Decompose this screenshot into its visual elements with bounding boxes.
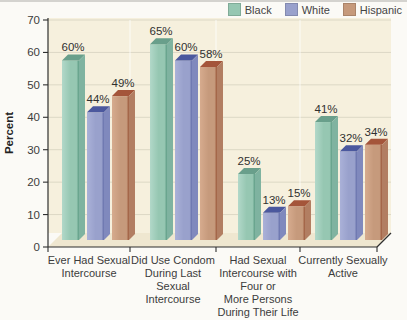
value-label-white-1: 60%: [174, 41, 197, 53]
bar-hispanic-2: [288, 206, 305, 240]
value-label-black-2: 25%: [237, 155, 260, 167]
bar-side-hispanic-0: [129, 90, 135, 240]
value-label-white-3: 32%: [339, 132, 362, 144]
y-tick-label-30: 30: [27, 144, 40, 156]
bar-side-white-1: [192, 54, 198, 240]
y-tick-label-60: 60: [27, 46, 40, 58]
bar-side-white-0: [104, 106, 110, 240]
bar-hispanic-3: [365, 145, 382, 240]
value-label-black-0: 60%: [61, 41, 84, 53]
bar-black-0: [62, 60, 79, 240]
category-label-0: Ever Had SexualIntercourse: [48, 254, 131, 279]
category-label-1: Did Use CondomDuring LastSexualIntercour…: [131, 254, 215, 305]
legend-label-hispanic: Hispanic: [360, 4, 402, 16]
category-label-2: Had SexualIntercourse withFour orMore Pe…: [217, 254, 298, 318]
bar-side-white-3: [357, 145, 363, 240]
bar-white-1: [175, 60, 192, 240]
bar-white-3: [340, 151, 357, 240]
legend-item-black: Black: [228, 3, 272, 16]
bar-side-black-1: [167, 38, 173, 240]
category-label-3: Currently SexuallyActive: [298, 254, 388, 279]
bar-hispanic-0: [112, 96, 129, 240]
chart-legend: Black White Hispanic: [228, 3, 402, 16]
bar-white-0: [87, 112, 104, 240]
bar-side-black-2: [255, 168, 261, 240]
legend-label-white: White: [302, 4, 330, 16]
y-tick-label-40: 40: [27, 111, 40, 123]
y-tick-label-20: 20: [27, 176, 40, 188]
bar-white-2: [263, 213, 280, 240]
bar-black-3: [315, 122, 332, 240]
bar-side-hispanic-3: [382, 139, 388, 240]
y-tick-label-0: 0: [34, 241, 40, 253]
value-label-hispanic-0: 49%: [111, 77, 134, 89]
value-label-hispanic-3: 34%: [364, 126, 387, 138]
value-label-hispanic-1: 58%: [199, 48, 222, 60]
value-label-black-1: 65%: [149, 25, 172, 37]
legend-item-hispanic: Hispanic: [343, 3, 402, 16]
bar-side-hispanic-1: [217, 61, 223, 240]
bar-black-2: [238, 174, 255, 240]
bar-side-black-0: [79, 54, 85, 240]
y-tick-label-10: 10: [27, 209, 40, 221]
legend-swatch-black: [228, 3, 241, 16]
value-label-white-0: 44%: [86, 93, 109, 105]
y-axis-title: Percent: [3, 112, 15, 154]
y-tick-label-70: 70: [27, 14, 40, 26]
value-label-white-2: 13%: [262, 194, 285, 206]
value-label-black-3: 41%: [314, 103, 337, 115]
bar-hispanic-1: [200, 67, 217, 240]
legend-item-white: White: [285, 3, 330, 16]
legend-swatch-white: [285, 3, 298, 16]
y-tick-label-50: 50: [27, 79, 40, 91]
value-label-hispanic-2: 15%: [287, 187, 310, 199]
bar-side-black-3: [332, 116, 338, 240]
bar-chart: 60%65%25%41%44%60%13%32%49%58%15%34%0102…: [0, 0, 407, 320]
legend-swatch-hispanic: [343, 3, 356, 16]
bar-black-1: [150, 44, 167, 240]
legend-label-black: Black: [245, 4, 272, 16]
bar-side-hispanic-2: [305, 200, 311, 240]
